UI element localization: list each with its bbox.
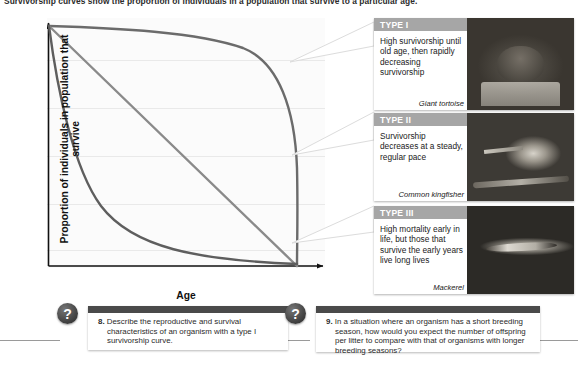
- question-mark-icon: ?: [285, 303, 306, 324]
- card-type-i: TYPE I High survivorship until old age, …: [374, 18, 574, 110]
- question-connector-rule: [0, 340, 60, 341]
- question-text: 9. In a situation where an organism has …: [316, 313, 540, 360]
- leader-type-i: [290, 22, 374, 62]
- question-body: In a situation where an organism has a s…: [335, 317, 526, 355]
- card-type-label: TYPE II: [374, 113, 467, 126]
- leader-type-ii: [292, 112, 374, 155]
- survivorship-curve-figure: Survivorship curves show the proportion …: [0, 0, 578, 367]
- question-number: 8.: [98, 317, 107, 326]
- card-type-iii: TYPE III High mortality early in life, b…: [374, 206, 574, 294]
- question-text: 8. Describe the reproductive and surviva…: [88, 313, 288, 351]
- question-body: Describe the reproductive and survival c…: [107, 317, 256, 345]
- card-description: High mortality early in life, but those …: [374, 219, 467, 266]
- question-bar: [88, 306, 288, 313]
- card-description: High survivorship until old age, then ra…: [374, 31, 467, 78]
- card-type-label: TYPE I: [374, 18, 467, 31]
- card-species-caption: Giant tortoise: [419, 99, 464, 108]
- question-connector-rule: [540, 340, 578, 341]
- question-mark-icon: ?: [57, 303, 78, 324]
- question-bar: [316, 306, 540, 313]
- mackerel-photo: [467, 206, 574, 294]
- giant-tortoise-photo: [467, 18, 574, 110]
- question-9: 9. In a situation where an organism has …: [316, 306, 540, 352]
- card-species-caption: Common kingfisher: [399, 190, 464, 199]
- question-8: 8. Describe the reproductive and surviva…: [88, 306, 288, 350]
- card-type-label: TYPE III: [374, 206, 467, 219]
- card-text-column: TYPE I High survivorship until old age, …: [374, 18, 467, 110]
- card-species-caption: Mackerel: [433, 283, 464, 292]
- card-text-column: TYPE II Survivorship decreases at a stea…: [374, 113, 467, 201]
- question-number: 9.: [326, 317, 335, 326]
- leader-type-iii: [292, 206, 374, 243]
- card-text-column: TYPE III High mortality early in life, b…: [374, 206, 467, 294]
- card-description: Survivorship decreases at a steady, regu…: [374, 126, 467, 162]
- common-kingfisher-photo: [467, 113, 574, 201]
- card-type-ii: TYPE II Survivorship decreases at a stea…: [374, 113, 574, 201]
